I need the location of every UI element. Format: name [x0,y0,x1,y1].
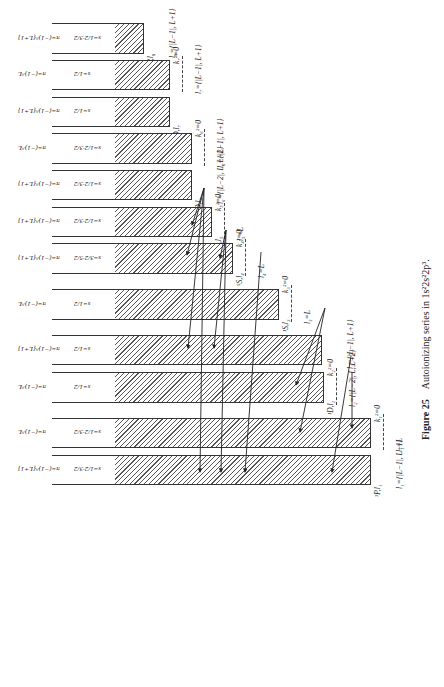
caption-text: Autoionizing series in 1s²2s²2p³. [420,259,431,389]
transition-arrows [0,0,444,687]
figure-caption: Figure 25Autoionizing series in 1s²2s²2p… [420,259,431,440]
figure-number: Figure 25 [420,399,431,440]
